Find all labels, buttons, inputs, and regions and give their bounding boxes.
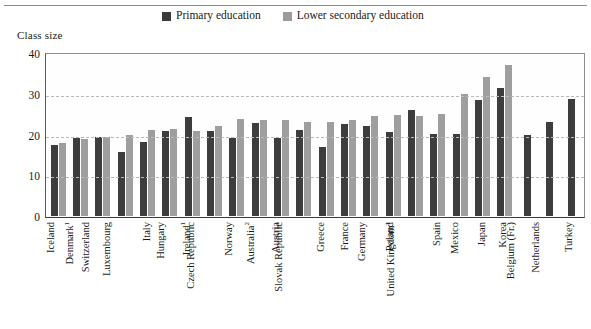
x-axis-label: Netherlands <box>531 222 542 273</box>
x-axis-label: Hungary <box>156 222 167 259</box>
bar-group <box>203 55 225 216</box>
bar-secondary <box>438 114 445 216</box>
gridline-10 <box>46 177 584 178</box>
bar-group <box>404 55 426 216</box>
bar-group <box>360 55 382 216</box>
header-rule <box>4 5 587 6</box>
x-axis-label: Germany <box>357 222 368 261</box>
bar-series-container <box>47 55 583 216</box>
x-label-cell: Luxembourg <box>113 220 136 325</box>
legend-item-secondary: Lower secondary education <box>283 10 424 22</box>
bar-group <box>69 55 91 216</box>
y-tick-label-40: 40 <box>0 48 40 60</box>
x-label-cell: Japan <box>473 220 496 325</box>
bar-secondary <box>461 94 468 216</box>
x-label-cell: Hungary <box>158 220 181 325</box>
bar-group <box>337 55 359 216</box>
bar-primary <box>118 152 125 216</box>
plot-area <box>45 53 585 218</box>
x-axis-label: Japan <box>477 222 488 246</box>
bar-secondary <box>282 120 289 216</box>
x-axis-label: United Kingdom1 <box>385 222 397 296</box>
chart-legend: Primary education Lower secondary educat… <box>162 8 424 24</box>
bar-group <box>159 55 181 216</box>
secondary-swatch-icon <box>283 12 292 21</box>
bar-group <box>293 55 315 216</box>
x-label-cell: United Kingdom1 <box>405 220 428 325</box>
gridline-20 <box>46 137 584 138</box>
x-label-cell: Slovak Republic <box>293 220 316 325</box>
primary-swatch-icon <box>162 12 171 21</box>
bar-primary <box>475 100 482 216</box>
bar-group <box>181 55 203 216</box>
x-label-cell: Greece <box>315 220 338 325</box>
x-axis-label: Norway <box>225 222 236 256</box>
bar-primary <box>408 110 415 216</box>
x-axis-label: Spain <box>432 222 443 246</box>
y-tick-label-30: 30 <box>0 89 40 101</box>
bar-primary <box>363 126 370 216</box>
bar-secondary <box>371 116 378 216</box>
y-tick-label-0: 0 <box>0 211 40 223</box>
bar-primary <box>453 134 460 216</box>
bar-secondary <box>170 129 177 216</box>
y-tick-label-10: 10 <box>0 170 40 182</box>
bar-secondary <box>237 119 244 216</box>
x-axis-label: Denmark1 <box>63 222 75 265</box>
bar-secondary <box>215 126 222 216</box>
bar-primary <box>568 99 575 216</box>
x-label-cell: Turkey <box>563 220 586 325</box>
bar-group <box>226 55 248 216</box>
gridline-30 <box>46 96 584 97</box>
y-tick-label-20: 20 <box>0 130 40 142</box>
bar-group <box>270 55 292 216</box>
bar-secondary <box>483 77 490 216</box>
bar-primary <box>386 132 393 216</box>
bar-primary <box>162 131 169 216</box>
x-axis-label: Italy <box>142 222 153 241</box>
bar-group <box>114 55 136 216</box>
x-axis-labels: IcelandDenmark1SwitzerlandLuxembourgItal… <box>45 220 585 325</box>
bar-group <box>382 55 404 216</box>
bar-group <box>494 55 516 216</box>
bar-group <box>92 55 114 216</box>
bar-group <box>47 55 69 216</box>
bar-secondary <box>59 143 66 216</box>
bar-group <box>471 55 493 216</box>
chart-figure: Primary education Lower secondary educat… <box>0 0 591 329</box>
bar-secondary <box>193 131 200 216</box>
bar-group <box>516 55 538 216</box>
bar-secondary <box>394 115 401 216</box>
bar-primary <box>319 147 326 216</box>
bar-primary <box>430 134 437 216</box>
bar-secondary <box>505 65 512 216</box>
bar-primary <box>524 135 531 216</box>
bar-primary <box>497 88 504 216</box>
bar-group <box>248 55 270 216</box>
bar-primary <box>207 131 214 216</box>
x-axis-label: Luxembourg <box>102 222 113 276</box>
bar-secondary <box>148 130 155 216</box>
x-axis-label: Switzerland <box>81 222 92 272</box>
legend-label-primary: Primary education <box>176 10 261 22</box>
x-label-cell: Mexico <box>450 220 473 325</box>
x-label-cell: Netherlands <box>540 220 563 325</box>
bar-primary <box>51 145 58 216</box>
legend-label-secondary: Lower secondary education <box>297 10 424 22</box>
bar-secondary <box>416 116 423 216</box>
bar-group <box>449 55 471 216</box>
bar-primary <box>185 117 192 216</box>
bar-secondary <box>349 120 356 216</box>
bar-secondary <box>260 120 267 216</box>
bar-group <box>315 55 337 216</box>
bar-group <box>136 55 158 216</box>
x-axis-label: Greece <box>317 222 328 252</box>
bar-group <box>561 55 583 216</box>
footnote-marker: 2 <box>243 222 251 226</box>
x-label-cell: Germany <box>360 220 383 325</box>
x-axis-label: France <box>340 222 351 251</box>
bar-secondary <box>126 135 133 216</box>
x-axis-label: Belgium (Fr.) <box>505 222 516 279</box>
x-axis-label: Australia2 <box>244 222 256 264</box>
bar-primary <box>296 130 303 216</box>
